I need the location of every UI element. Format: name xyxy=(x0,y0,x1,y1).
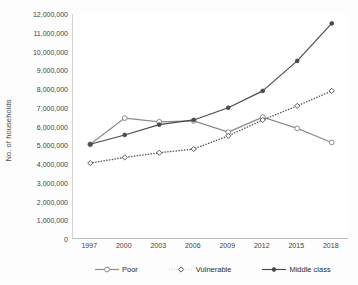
y-axis-title: No. of households xyxy=(0,70,16,190)
y-axis-tick-label: 10,000,000 xyxy=(33,48,68,55)
data-point-marker xyxy=(122,116,127,121)
x-axis-tick-label: 2003 xyxy=(150,242,166,249)
y-axis-tick-label: 4,000,000 xyxy=(37,161,68,168)
data-point-marker xyxy=(122,155,127,160)
data-point-marker xyxy=(192,118,196,122)
legend-label: Middle class xyxy=(289,265,330,274)
x-axis-tick-label: 1997 xyxy=(81,242,97,249)
data-point-marker xyxy=(191,146,196,151)
chart-legend: PoorVulnerableMiddle class xyxy=(72,262,348,276)
legend-marker-icon xyxy=(168,265,194,274)
series-line xyxy=(90,117,332,144)
x-axis-tick-label: 2018 xyxy=(323,242,339,249)
x-axis-tick-label: 2000 xyxy=(116,242,132,249)
data-point-marker xyxy=(295,103,300,108)
data-point-marker xyxy=(329,88,334,93)
data-point-marker xyxy=(329,140,334,145)
plot-area xyxy=(72,14,348,239)
legend-item-vulnerable[interactable]: Vulnerable xyxy=(168,265,232,274)
data-point-marker xyxy=(123,133,127,137)
x-axis-tick-labels: 19972000200320062009201220152018 xyxy=(72,242,348,254)
x-axis-tick-label: 2015 xyxy=(288,242,304,249)
legend-item-poor[interactable]: Poor xyxy=(94,265,138,274)
y-axis-tick-label: 8,000,000 xyxy=(37,86,68,93)
legend-marker-icon xyxy=(261,265,287,274)
y-axis-tick-label: 6,000,000 xyxy=(37,123,68,130)
y-axis-tick-label: 0 xyxy=(64,236,68,243)
y-axis-tick-label: 5,000,000 xyxy=(37,142,68,149)
legend-marker-icon xyxy=(94,265,120,274)
y-axis-tick-label: 9,000,000 xyxy=(37,67,68,74)
y-axis-title-text: No. of households xyxy=(4,99,13,161)
y-axis-tick-labels: 12,000,00011,000,00010,000,0009,000,0008… xyxy=(16,14,70,242)
x-axis-tick-label: 2006 xyxy=(185,242,201,249)
data-point-marker xyxy=(295,126,300,131)
chart-container: No. of households 12,000,00011,000,00010… xyxy=(0,0,358,285)
legend-label: Vulnerable xyxy=(196,265,232,274)
data-point-marker xyxy=(88,160,93,165)
plot-svg xyxy=(73,14,349,239)
x-axis-tick-label: 2012 xyxy=(254,242,270,249)
y-axis-tick-label: 2,000,000 xyxy=(37,198,68,205)
data-point-marker xyxy=(157,150,162,155)
y-axis-tick-label: 3,000,000 xyxy=(37,179,68,186)
data-point-marker xyxy=(330,21,334,25)
y-axis-tick-label: 7,000,000 xyxy=(37,104,68,111)
y-axis-tick-label: 12,000,000 xyxy=(33,11,68,18)
y-axis-tick-label: 1,000,000 xyxy=(37,217,68,224)
data-point-marker xyxy=(226,106,230,110)
legend-label: Poor xyxy=(122,265,138,274)
data-point-marker xyxy=(157,123,161,127)
y-axis-tick-label: 11,000,000 xyxy=(33,29,68,36)
x-axis-tick-label: 2009 xyxy=(219,242,235,249)
data-point-marker xyxy=(261,89,265,93)
legend-item-middle-class[interactable]: Middle class xyxy=(261,265,330,274)
data-point-marker xyxy=(88,142,92,146)
data-point-marker xyxy=(295,59,299,63)
